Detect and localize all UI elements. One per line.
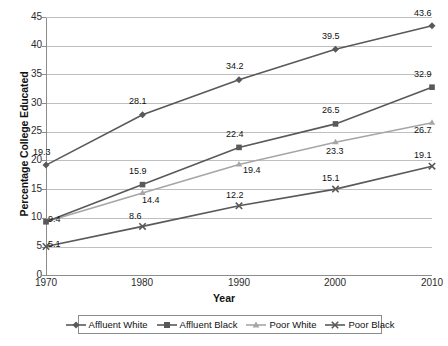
point-label-ab-1980: 15.9 — [129, 167, 147, 176]
x-marker-icon — [325, 320, 345, 330]
point-label-pw-1980: 14.4 — [142, 196, 160, 205]
point-label-ab-1990: 22.4 — [226, 130, 244, 139]
point-label-pw-2010: 26.7 — [414, 126, 432, 135]
point-label-pb-1980: 8.6 — [129, 212, 142, 221]
chart-legend: Affluent White Affluent Black Poor White… — [78, 315, 382, 334]
legend-label-affluent-black: Affluent Black — [180, 319, 238, 330]
point-label-pw-2000: 23.3 — [326, 147, 344, 156]
point-label-ab-2000: 26.5 — [322, 106, 340, 115]
legend-item-affluent-white[interactable]: Affluent White — [66, 319, 148, 330]
point-label-pb-2010: 19.1 — [414, 151, 432, 160]
triangle-marker-icon — [246, 320, 266, 330]
point-label-aw-1990: 34.2 — [226, 62, 244, 71]
legend-item-affluent-black[interactable]: Affluent Black — [157, 319, 238, 330]
square-marker-icon — [157, 320, 177, 330]
point-label-pb-2000: 15.1 — [322, 174, 340, 183]
series-affluent-black — [43, 84, 435, 224]
point-label-aw-2010: 43.6 — [414, 9, 432, 18]
line-chart: Percentage College Educated 45 40 35 30 … — [0, 0, 448, 346]
legend-label-poor-black: Poor Black — [348, 319, 394, 330]
point-label-pb-1990: 12.2 — [226, 191, 244, 200]
point-label-pw-1990: 19.4 — [243, 166, 261, 175]
point-label-ab-2010: 32.9 — [414, 70, 432, 79]
legend-item-poor-white[interactable]: Poor White — [246, 319, 316, 330]
x-tick-1990: 1990 — [216, 277, 262, 288]
point-label-aw-2000: 39.5 — [322, 32, 340, 41]
point-label-aw-1980: 28.1 — [129, 97, 147, 106]
point-label-pb-1970: 5.1 — [48, 240, 61, 249]
point-label-ab-1970: 9.4 — [48, 215, 61, 224]
diamond-marker-icon — [66, 320, 86, 330]
legend-label-affluent-white: Affluent White — [89, 319, 148, 330]
series-poor-black — [43, 163, 435, 250]
x-tick-2000: 2000 — [312, 277, 358, 288]
x-tick-1970: 1970 — [23, 277, 69, 288]
x-axis-title: Year — [0, 292, 448, 304]
legend-label-poor-white: Poor White — [269, 319, 316, 330]
legend-item-poor-black[interactable]: Poor Black — [325, 319, 394, 330]
x-tick-1980: 1980 — [119, 277, 165, 288]
point-label-aw-1970: 19.3 — [33, 148, 51, 157]
x-tick-2010: 2010 — [409, 277, 448, 288]
